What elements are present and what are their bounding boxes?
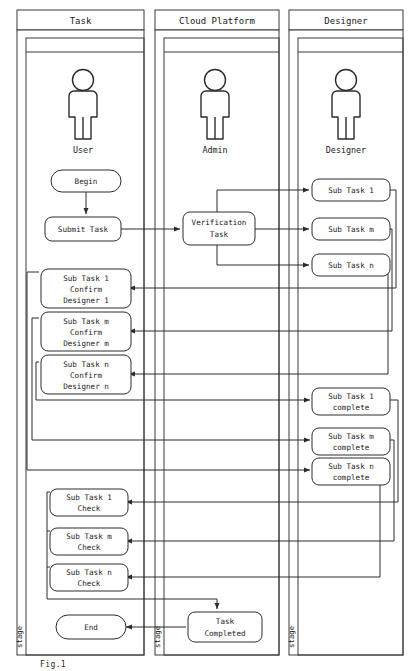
node-sub-task-1-label: Sub Task 1 xyxy=(328,186,374,195)
node-task-completed[interactable]: Task Completed xyxy=(188,612,262,642)
lane-title-cloud: Cloud Platform xyxy=(179,16,255,26)
figure-caption: Fig.1 xyxy=(40,660,66,669)
actor-label-user: User xyxy=(73,145,93,155)
stage-label-designer: stage xyxy=(287,625,296,648)
node-sub-task-n[interactable]: Sub Task n xyxy=(312,254,390,276)
node-confirm-1-line2: Confirm xyxy=(70,285,102,294)
node-verification-task-line2: Task xyxy=(210,230,229,239)
node-sub-task-n-check[interactable]: Sub Task n Check xyxy=(50,564,128,591)
node-confirm-1-line1: Sub Task 1 xyxy=(63,274,109,283)
node-confirm-1-line3: Designer 1 xyxy=(63,296,109,305)
flow-canvas: Task stage Cloud Platform stage Designer… xyxy=(0,0,412,671)
node-complete-m-line2: complete xyxy=(333,443,370,452)
node-confirm-designer-1[interactable]: Sub Task 1 Confirm Designer 1 xyxy=(41,269,131,308)
node-complete-1-line1: Sub Task 1 xyxy=(328,392,374,401)
node-begin[interactable]: Begin xyxy=(51,170,121,192)
node-submit-task[interactable]: Submit Task xyxy=(45,217,121,241)
node-confirm-m-line3: Designer m xyxy=(63,339,109,348)
node-begin-label: Begin xyxy=(75,177,98,186)
node-sub-task-m-label: Sub Task m xyxy=(328,225,374,234)
node-sub-task-1[interactable]: Sub Task 1 xyxy=(312,179,390,201)
node-end[interactable]: End xyxy=(56,615,126,639)
node-check-1-line1: Sub Task 1 xyxy=(66,493,112,502)
node-verification-task[interactable]: Verification Task xyxy=(183,212,255,245)
node-sub-task-n-complete[interactable]: Sub Task n complete xyxy=(312,458,390,485)
actor-label-designer: Designer xyxy=(326,145,366,155)
lane-body-cloud xyxy=(155,30,279,655)
lane-title-task: Task xyxy=(70,16,92,26)
node-submit-task-label: Submit Task xyxy=(58,225,109,234)
node-confirm-m-line1: Sub Task m xyxy=(63,317,109,326)
node-verification-task-line1: Verification xyxy=(192,218,247,227)
swimlane-diagram: Task stage Cloud Platform stage Designer… xyxy=(0,0,412,671)
node-sub-task-m-complete[interactable]: Sub Task m complete xyxy=(312,428,390,455)
node-check-n-line2: Check xyxy=(78,579,101,588)
node-complete-n-line1: Sub Task n xyxy=(328,462,374,471)
lane-designer: Designer stage xyxy=(287,10,403,655)
node-confirm-designer-n[interactable]: Sub Task n Confirm Designer n xyxy=(41,355,131,394)
lane-cloud-platform: Cloud Platform stage xyxy=(153,10,279,655)
node-end-label: End xyxy=(84,623,98,632)
node-confirm-designer-m[interactable]: Sub Task m Confirm Designer m xyxy=(41,312,131,351)
stage-label-cloud: stage xyxy=(153,625,162,648)
node-sub-task-m[interactable]: Sub Task m xyxy=(312,218,390,240)
node-complete-1-line2: complete xyxy=(333,403,370,412)
stage-label-task: stage xyxy=(15,625,24,648)
node-check-1-line2: Check xyxy=(78,504,101,513)
node-check-n-line1: Sub Task n xyxy=(66,568,112,577)
actor-label-admin: Admin xyxy=(202,145,227,155)
node-sub-task-1-complete[interactable]: Sub Task 1 complete xyxy=(312,388,390,415)
node-task-completed-line2: Completed xyxy=(204,629,245,638)
node-check-m-line1: Sub Task m xyxy=(66,532,112,541)
node-sub-task-m-check[interactable]: Sub Task m Check xyxy=(50,528,128,555)
node-sub-task-n-label: Sub Task n xyxy=(328,261,374,270)
node-sub-task-1-check[interactable]: Sub Task 1 Check xyxy=(50,489,128,516)
node-task-completed-line1: Task xyxy=(216,617,235,626)
node-confirm-n-line3: Designer n xyxy=(63,382,109,391)
node-complete-m-line1: Sub Task m xyxy=(328,432,374,441)
node-confirm-n-line2: Confirm xyxy=(70,371,102,380)
node-confirm-n-line1: Sub Task n xyxy=(63,360,109,369)
node-complete-n-line2: complete xyxy=(333,473,370,482)
node-check-m-line2: Check xyxy=(78,543,101,552)
lane-title-designer: Designer xyxy=(324,16,368,26)
node-confirm-m-line2: Confirm xyxy=(70,328,102,337)
